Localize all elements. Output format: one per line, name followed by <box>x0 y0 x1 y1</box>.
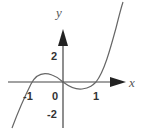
x-tick-1: 1 <box>93 90 99 102</box>
x-tick-neg1: -1 <box>23 90 33 102</box>
y-tick-neg2: -2 <box>47 108 57 120</box>
y-axis-arrow-icon <box>58 29 68 46</box>
x-tick-0: 0 <box>52 90 58 102</box>
y-tick-2: 2 <box>51 50 57 62</box>
x-axis-arrow-icon <box>110 77 126 87</box>
cubic-graph: y x 2 -2 -1 0 1 <box>0 0 143 138</box>
function-curve <box>12 2 123 128</box>
y-axis-label: y <box>54 5 62 20</box>
x-axis-label: x <box>128 75 135 90</box>
